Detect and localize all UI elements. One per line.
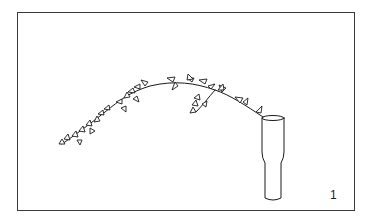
leaves-icon bbox=[59, 74, 262, 145]
vase-icon bbox=[262, 116, 284, 201]
vine-and-vase-illustration bbox=[0, 0, 372, 221]
figure-number: 1 bbox=[330, 188, 337, 202]
vine-stem-icon bbox=[62, 83, 263, 144]
